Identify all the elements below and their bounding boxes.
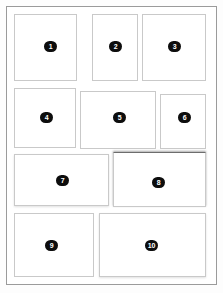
- panel-9-number-badge: 9: [45, 240, 58, 251]
- panel-5-number-badge: 5: [113, 112, 126, 123]
- panel-6-number-badge: 6: [178, 112, 191, 123]
- layout-diagram-canvas: 12345678910: [0, 0, 223, 293]
- panel-8-number-badge: 8: [152, 177, 165, 188]
- panel-2-number-badge: 2: [109, 41, 122, 52]
- panel-7-number-badge: 7: [56, 175, 69, 186]
- panel-1-number-badge: 1: [44, 41, 57, 52]
- panel-4-number-badge: 4: [40, 112, 53, 123]
- panel-10-number-badge: 10: [145, 240, 158, 251]
- panel-3-number-badge: 3: [168, 41, 181, 52]
